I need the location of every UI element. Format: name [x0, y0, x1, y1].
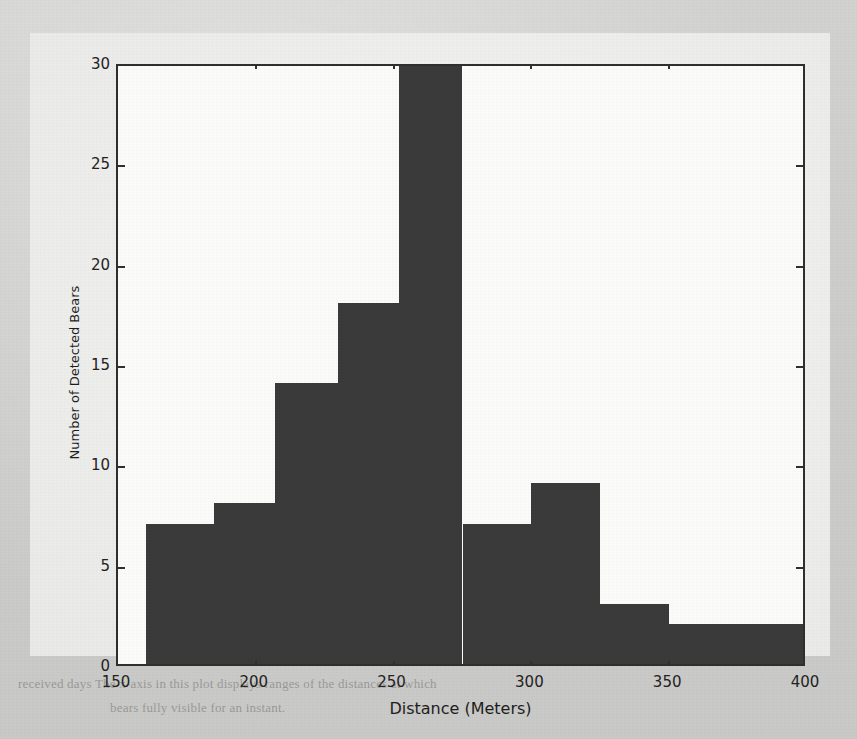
x-axis-tick: [255, 661, 257, 666]
y-axis-tick-right: [796, 466, 803, 468]
y-tick-label: 15: [91, 356, 110, 374]
x-axis-tick-top: [668, 64, 670, 69]
histogram-bars: [118, 66, 803, 664]
x-axis-tick-top: [255, 64, 257, 69]
y-axis-tick-right: [796, 567, 803, 569]
histogram-bar: [275, 383, 338, 664]
x-axis-tick-top: [530, 64, 532, 69]
histogram-bar: [463, 524, 532, 664]
y-axis-tick: [118, 567, 125, 569]
y-tick-label: 20: [91, 256, 110, 274]
x-axis-title: Distance (Meters): [116, 699, 805, 718]
x-tick-label: 150: [102, 673, 131, 691]
x-tick-label: 200: [239, 673, 268, 691]
x-tick-label: 350: [653, 673, 682, 691]
x-axis-tick-top: [393, 64, 395, 69]
y-tick-label: 5: [100, 557, 110, 575]
plot-area: [116, 64, 805, 666]
x-axis-tick: [393, 661, 395, 666]
x-axis-tick: [530, 661, 532, 666]
y-tick-label: 30: [91, 55, 110, 73]
x-axis-tick: [668, 661, 670, 666]
y-axis-tick: [118, 165, 125, 167]
y-axis-tick-right: [796, 266, 803, 268]
x-tick-label: 400: [791, 673, 820, 691]
histogram-bar: [600, 604, 669, 664]
y-axis-tick: [118, 266, 125, 268]
scanned-page: received days The x-axis in this plot di…: [0, 0, 857, 739]
y-tick-label-group: 051015202530: [76, 64, 110, 666]
y-axis-tick: [118, 466, 125, 468]
histogram-bar: [531, 483, 600, 664]
y-axis-tick-right: [796, 165, 803, 167]
x-tick-label: 250: [377, 673, 406, 691]
y-axis-tick: [118, 366, 125, 368]
y-tick-label: 25: [91, 155, 110, 173]
histogram-bar: [214, 503, 275, 664]
histogram-bar: [338, 303, 399, 664]
histogram-bar: [669, 624, 805, 664]
histogram-bar: [146, 524, 215, 664]
histogram-bar: [399, 64, 462, 664]
y-axis-tick-right: [796, 366, 803, 368]
x-tick-label-group: 150200250300350400: [116, 673, 805, 695]
chart-figure: Number of Detected Bears 051015202530 15…: [30, 33, 830, 656]
y-tick-label: 10: [91, 456, 110, 474]
x-tick-label: 300: [515, 673, 544, 691]
